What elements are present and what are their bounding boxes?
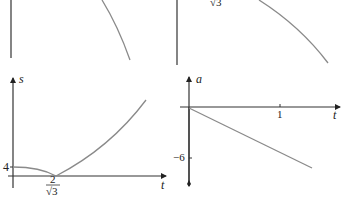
a-line: [189, 108, 312, 168]
a-tick-label-neg6: −6: [173, 152, 185, 163]
s-curve-increasing: [56, 100, 146, 176]
s-axis-label: s: [19, 73, 24, 85]
panel-top-right: [177, 0, 328, 65]
a-axis-down-arrow: [187, 180, 191, 187]
panel-top-left: [11, 0, 130, 60]
t-tick-label-1: 1: [277, 109, 283, 120]
t-tick-denominator: √3: [46, 186, 58, 197]
annotation-sqrt3: √3: [210, 0, 222, 8]
curve: [102, 0, 130, 60]
panel-s-vs-t: [8, 78, 166, 188]
panel-a-vs-t: [180, 77, 340, 187]
t-axis-label-right: t: [333, 109, 336, 121]
t-tick-numerator: 2: [50, 174, 56, 185]
s-tick-label-4: 4: [3, 161, 9, 173]
t-axis-label-left: t: [161, 179, 164, 191]
curve: [259, 0, 328, 63]
a-axis-label: a: [196, 73, 202, 85]
